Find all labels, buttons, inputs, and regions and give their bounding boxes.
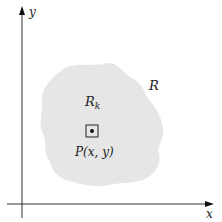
y-axis-label: y (28, 5, 36, 19)
region-r-shape (41, 63, 164, 186)
subregion-label-sub: k (95, 101, 100, 111)
y-axis-arrow-icon (19, 6, 25, 15)
point-label: P(x, y) (74, 145, 114, 159)
double-integral-region-diagram: y x R Rk P(x, y) (0, 0, 222, 222)
x-axis-label: x (206, 207, 213, 221)
subregion-label-main: R (84, 94, 95, 109)
region-label: R (148, 78, 159, 93)
point-dot-icon (90, 129, 94, 133)
